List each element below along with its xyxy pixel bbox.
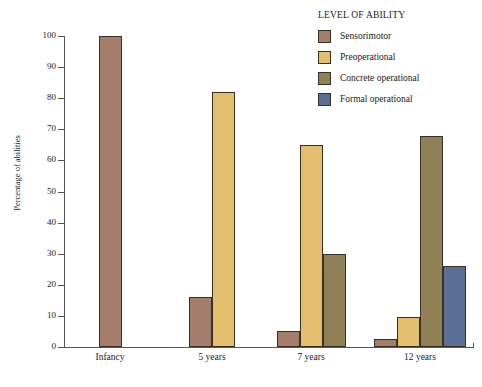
y-axis-tick-label: 10 (6, 311, 56, 320)
y-axis-tick-labels: 0102030405060708090100 (0, 0, 56, 387)
x-axis-end-tick (473, 343, 474, 348)
y-axis-tick (58, 192, 65, 193)
y-axis-tick-label: 90 (6, 62, 56, 71)
bar (300, 145, 323, 347)
legend-swatch (318, 93, 331, 106)
legend-label: Formal operational (340, 94, 413, 104)
legend-label: Sensorimotor (340, 31, 391, 41)
legend-swatch (318, 30, 331, 43)
y-axis-tick-label: 0 (6, 342, 56, 351)
legend-label: Preoperational (340, 52, 395, 62)
x-axis-line (64, 347, 474, 348)
bar (212, 92, 235, 347)
y-axis-tick-label: 80 (6, 93, 56, 102)
y-axis-tick (58, 160, 65, 161)
y-axis-tick (58, 36, 65, 37)
legend-item: Sensorimotor (318, 27, 482, 45)
y-axis-tick (58, 316, 65, 317)
y-axis-tick (58, 254, 65, 255)
legend-item: Concrete operational (318, 69, 482, 87)
y-axis-tick (58, 98, 65, 99)
y-axis-tick (58, 223, 65, 224)
bar (374, 339, 397, 347)
x-axis-category-label: 12 years (380, 352, 460, 362)
legend-swatch (318, 72, 331, 85)
y-axis-tick (58, 347, 65, 348)
y-axis-tick (58, 67, 65, 68)
bar (397, 317, 420, 347)
bar (443, 266, 466, 347)
legend-item: Preoperational (318, 48, 482, 66)
legend-label: Concrete operational (340, 73, 419, 83)
y-axis-tick-label: 30 (6, 249, 56, 258)
bar (99, 36, 122, 347)
bar (323, 254, 346, 347)
bar (420, 136, 443, 347)
x-axis-category-label: Infancy (70, 352, 150, 362)
legend-item: Formal operational (318, 90, 482, 108)
legend-swatch (318, 51, 331, 64)
bar (189, 297, 212, 347)
y-axis-tick (58, 129, 65, 130)
x-axis-category-label: 7 years (271, 352, 351, 362)
y-axis-tick (58, 285, 65, 286)
y-axis-tick-label: 20 (6, 280, 56, 289)
y-axis-title: Percentage of abilities (12, 118, 22, 228)
legend-title: LEVEL OF ABILITY (318, 10, 482, 20)
bar (277, 331, 300, 347)
x-axis-category-label: 5 years (172, 352, 252, 362)
legend-items: SensorimotorPreoperationalConcrete opera… (318, 27, 482, 108)
legend: LEVEL OF ABILITY SensorimotorPreoperatio… (318, 10, 482, 111)
y-axis-tick-label: 100 (6, 31, 56, 40)
